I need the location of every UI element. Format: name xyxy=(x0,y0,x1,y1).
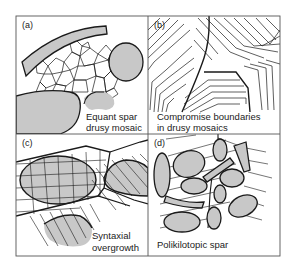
bottom-grain xyxy=(16,91,80,134)
panel-d-caption: Polikilotopic spar xyxy=(157,239,228,250)
panel-c-tag: (c) xyxy=(22,138,33,148)
panel-b-caption-line1: Compromise boundaries xyxy=(157,111,261,122)
panel-a-tag: (a) xyxy=(22,20,33,30)
panel-c-caption-line1: Syntaxial xyxy=(92,230,131,241)
panel-b-caption-line2: in drusy mosaics xyxy=(157,122,228,133)
round-grain xyxy=(109,43,143,81)
right-crystal-growth-zones xyxy=(194,18,280,110)
panel-d-tag: (d) xyxy=(154,138,165,148)
panel-a-caption-line1: Equant spar xyxy=(86,111,137,122)
panel-a-caption-line2: drusy mosaic xyxy=(86,122,142,133)
left-crystal-growth-zones xyxy=(148,18,194,112)
panel-b xyxy=(148,16,280,112)
panel-c-caption-line2: overgrowth xyxy=(92,242,139,253)
enclosed-grains xyxy=(154,139,261,232)
small-grain xyxy=(84,92,114,110)
panel-d xyxy=(154,134,272,232)
panel-b-tag: (b) xyxy=(154,20,165,30)
cement-fabrics-diagram: (a) Equant spar drusy mosaic xyxy=(0,0,298,269)
